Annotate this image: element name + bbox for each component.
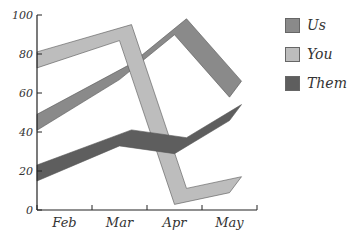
x-tick-label: May [214, 215, 244, 230]
legend-label: You [307, 46, 332, 62]
legend-label: Us [307, 17, 326, 33]
legend-item-them: Them [285, 70, 347, 96]
legend-swatch-them [285, 76, 300, 91]
y-tick-label: 20 [18, 165, 33, 178]
x-tick-label: Apr [162, 215, 188, 230]
x-tick-label: Mar [105, 215, 134, 230]
legend-item-you: You [285, 41, 347, 67]
legend-swatch-us [285, 18, 300, 33]
legend: Us You Them [285, 12, 347, 99]
y-tick-label: 80 [19, 48, 33, 61]
y-tick-label: 40 [18, 126, 33, 139]
legend-label: Them [307, 75, 347, 91]
series-ribbon-them [37, 105, 242, 181]
y-tick-label: 100 [12, 9, 33, 22]
y-tick-label: 0 [26, 204, 33, 217]
legend-item-us: Us [285, 12, 347, 38]
series-ribbons [37, 19, 242, 205]
y-tick-label: 60 [19, 87, 33, 100]
legend-swatch-you [285, 47, 300, 62]
x-tick-label: Feb [51, 215, 76, 230]
